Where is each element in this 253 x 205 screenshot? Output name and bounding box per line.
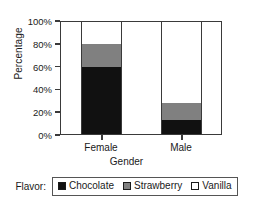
y-tick-label: 40% — [33, 84, 52, 95]
legend-title: Flavor: — [15, 181, 46, 192]
legend-swatch-vanilla-icon — [191, 182, 199, 190]
legend-swatch-chocolate-icon — [58, 182, 66, 190]
y-tick-label: 20% — [33, 107, 52, 118]
bar-female — [81, 21, 122, 135]
legend: Flavor: ChocolateStrawberryVanilla — [0, 174, 253, 198]
bar-segment-chocolate — [161, 120, 202, 135]
legend-label: Strawberry — [134, 181, 182, 191]
legend-label: Vanilla — [202, 181, 231, 191]
legend-swatch-strawberry-icon — [123, 182, 131, 190]
bar-segment-vanilla — [81, 21, 122, 44]
y-tick-label: 60% — [33, 61, 52, 72]
bar-segment-chocolate — [81, 67, 122, 135]
legend-item-strawberry[interactable]: Strawberry — [123, 181, 182, 191]
x-tick-label-female: Female — [84, 142, 117, 153]
bar-segment-strawberry — [81, 44, 122, 67]
y-tick-label: 80% — [33, 38, 52, 49]
bar-male — [161, 21, 202, 135]
legend-item-chocolate[interactable]: Chocolate — [58, 181, 114, 191]
y-axis-ticks: 0%20%40%60%80%100% — [0, 21, 60, 135]
x-axis-title: Gender — [0, 156, 253, 167]
bars-layer — [60, 21, 222, 135]
legend-box: ChocolateStrawberryVanilla — [52, 177, 238, 196]
stacked-bar-chart: Percentage 0%20%40%60%80%100% FemaleMale… — [0, 0, 253, 205]
x-tick-mark — [101, 135, 103, 140]
y-tick-label: 0% — [38, 130, 52, 141]
x-tick-mark — [181, 135, 183, 140]
bar-segment-vanilla — [161, 21, 202, 103]
x-tick-label-male: Male — [170, 142, 192, 153]
y-tick-label: 100% — [28, 16, 52, 27]
legend-item-vanilla[interactable]: Vanilla — [191, 181, 231, 191]
bar-segment-strawberry — [161, 103, 202, 120]
legend-label: Chocolate — [69, 181, 114, 191]
